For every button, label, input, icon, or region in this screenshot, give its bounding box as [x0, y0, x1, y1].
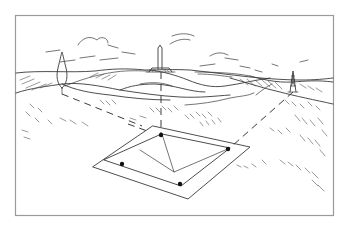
picture-border — [16, 16, 334, 216]
illustration-svg — [0, 0, 345, 226]
obelisk-icon — [146, 45, 175, 72]
clouds — [46, 34, 308, 72]
hills — [16, 70, 333, 105]
sighting-frame — [93, 126, 250, 199]
pin-bottom — [178, 182, 182, 186]
cypress-tree-icon — [57, 52, 67, 94]
frame-pyramid-lines — [162, 134, 230, 172]
pin-left — [120, 162, 124, 166]
pin-right — [226, 147, 230, 151]
frame-pyramid-line-left — [140, 150, 174, 172]
pin-top — [159, 133, 163, 137]
frame-inner — [104, 134, 230, 186]
hatching — [20, 73, 327, 191]
frame-outer — [93, 126, 250, 199]
landscape-illustration — [0, 0, 345, 226]
